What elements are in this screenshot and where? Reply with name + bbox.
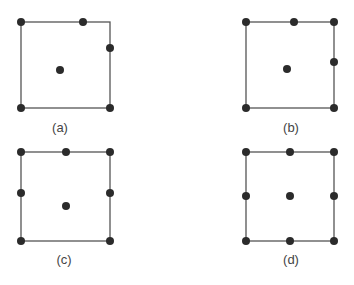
node-dot (283, 65, 291, 73)
node-dot (330, 18, 338, 26)
node-dot (62, 202, 70, 210)
node-dot (17, 148, 25, 156)
panel-c-caption: (c) (56, 252, 71, 267)
node-dot (330, 58, 338, 66)
node-dot (242, 104, 250, 112)
node-dot (17, 104, 25, 112)
node-dot (242, 148, 250, 156)
node-dot (79, 18, 87, 26)
node-dot (330, 237, 338, 245)
node-dot (17, 237, 25, 245)
panel-c (17, 148, 114, 245)
node-dot (62, 148, 70, 156)
panel-d-caption: (d) (283, 252, 299, 267)
node-dot (242, 237, 250, 245)
node-dot (286, 148, 294, 156)
node-dot (286, 192, 294, 200)
node-dot (106, 237, 114, 245)
element-boundary (21, 152, 110, 241)
panel-a-caption: (a) (52, 120, 68, 135)
panel-a (17, 18, 114, 112)
node-dot (286, 237, 294, 245)
node-dot (290, 18, 298, 26)
panel-d (242, 148, 338, 245)
node-dot (330, 104, 338, 112)
element-boundary (246, 22, 334, 108)
element-boundary (21, 22, 110, 108)
node-dot (242, 192, 250, 200)
node-dot (106, 148, 114, 156)
node-dot (330, 148, 338, 156)
node-dot (56, 66, 64, 74)
node-dot (330, 192, 338, 200)
node-dot (106, 44, 114, 52)
node-dot (242, 18, 250, 26)
node-dot (17, 189, 25, 197)
panel-b (242, 18, 338, 112)
node-dot (17, 18, 25, 26)
node-dot (106, 104, 114, 112)
node-dot (106, 189, 114, 197)
element-node-diagrams (0, 0, 354, 285)
panel-b-caption: (b) (283, 120, 299, 135)
